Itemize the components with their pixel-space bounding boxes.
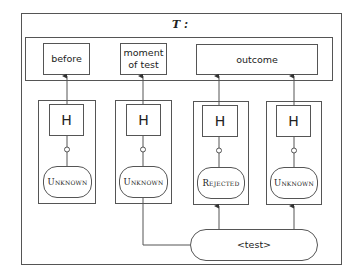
outcome-box: outcome bbox=[196, 44, 318, 75]
h-label-3: H bbox=[215, 115, 226, 127]
state-label-1: Unknown bbox=[48, 176, 88, 188]
h-label-1: H bbox=[61, 114, 72, 126]
test-label: <test> bbox=[237, 239, 271, 251]
before-label: before bbox=[51, 53, 82, 65]
h-box-1: H bbox=[49, 104, 84, 136]
before-box: before bbox=[43, 43, 90, 75]
h-box-3: H bbox=[202, 105, 238, 137]
state-label-2: Unknown bbox=[124, 176, 164, 188]
state-label-4: Unknown bbox=[274, 177, 314, 189]
state-label-3: Rejected bbox=[203, 177, 240, 189]
h-box-4: H bbox=[276, 105, 311, 137]
diagram-title: T : bbox=[150, 16, 210, 34]
h-box-2: H bbox=[126, 104, 161, 136]
outcome-label: outcome bbox=[236, 54, 278, 66]
moment-of-test-label: moment of test bbox=[122, 47, 166, 71]
state-pill-4: Unknown bbox=[270, 167, 318, 199]
h-label-2: H bbox=[138, 114, 149, 126]
state-pill-3: Rejected bbox=[197, 167, 245, 199]
state-pill-1: Unknown bbox=[43, 166, 92, 198]
h-label-4: H bbox=[288, 115, 299, 127]
moment-of-test-box: moment of test bbox=[120, 43, 167, 75]
state-pill-2: Unknown bbox=[119, 166, 168, 198]
test-node: <test> bbox=[190, 229, 318, 261]
